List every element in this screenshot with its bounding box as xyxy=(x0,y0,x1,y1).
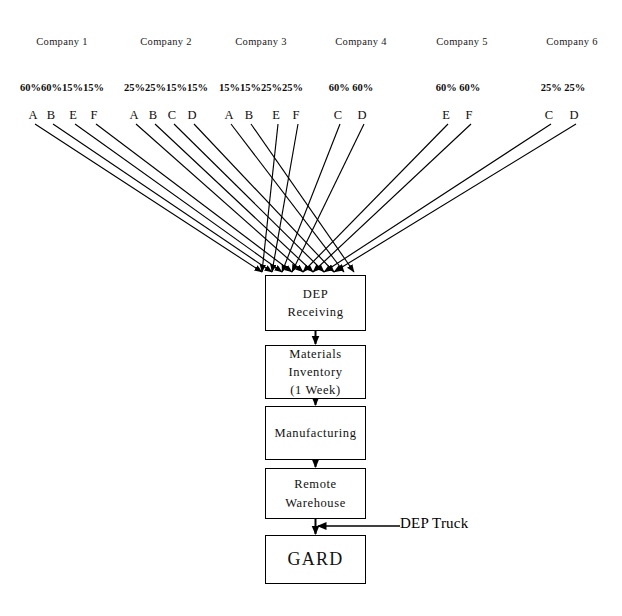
process-box-dep-receiving-line: DEP xyxy=(303,285,328,303)
company-header-3: Company 3 xyxy=(235,36,286,47)
source-letter-6-C: C xyxy=(545,108,553,123)
source-letter-2-B: B xyxy=(149,108,157,123)
percent-row-company-3: 15%15%25%25% xyxy=(219,82,303,93)
process-box-dep-receiving: DEPReceiving xyxy=(265,275,366,331)
supplier-arrow xyxy=(35,124,262,272)
supplier-arrow xyxy=(174,124,324,272)
source-letter-1-A: A xyxy=(28,108,37,123)
percent-row-company-4: 60% 60% xyxy=(329,82,374,93)
company-header-6: Company 6 xyxy=(546,36,597,47)
source-letter-5-F: F xyxy=(466,108,473,123)
source-letter-6-D: D xyxy=(569,108,578,123)
process-box-gard: GARD xyxy=(265,535,366,584)
source-letter-3-F: F xyxy=(293,108,300,123)
company-header-2: Company 2 xyxy=(140,36,191,47)
supplier-arrow xyxy=(96,124,292,272)
process-box-materials-inventory-line: Materials xyxy=(289,345,342,363)
source-letter-1-E: E xyxy=(69,108,77,123)
source-letter-2-A: A xyxy=(129,108,138,123)
process-box-remote-warehouse-line: Remote xyxy=(294,475,336,493)
source-letter-1-B: B xyxy=(47,108,55,123)
source-letter-4-D: D xyxy=(357,108,366,123)
supplier-arrow xyxy=(136,124,303,272)
percent-row-company-1: 60%60%15%15% xyxy=(20,82,104,93)
percent-row-company-5: 60% 60% xyxy=(436,82,481,93)
supplier-arrow xyxy=(324,124,551,272)
process-box-gard-line: GARD xyxy=(288,546,344,572)
percent-row-company-6: 25% 25% xyxy=(541,82,586,93)
process-box-materials-inventory-line: Inventory xyxy=(289,363,343,381)
source-letter-1-F: F xyxy=(91,108,98,123)
process-box-manufacturing-line: Manufacturing xyxy=(274,424,356,442)
process-box-manufacturing: Manufacturing xyxy=(265,406,366,460)
supplier-arrow xyxy=(334,124,576,272)
supplier-arrow xyxy=(313,124,471,272)
source-letter-2-D: D xyxy=(187,108,196,123)
supplier-arrow xyxy=(231,124,344,272)
process-box-materials-inventory-line: (1 Week) xyxy=(290,381,340,399)
source-letter-3-B: B xyxy=(245,108,253,123)
percent-row-company-2: 25%25%15%15% xyxy=(124,82,208,93)
process-box-dep-receiving-line: Receiving xyxy=(287,303,343,321)
supplier-arrow-group xyxy=(35,124,576,272)
diagram-canvas: Company 1Company 2Company 3Company 4Comp… xyxy=(0,0,622,616)
dep-truck-label: DEP Truck xyxy=(400,515,468,532)
company-header-1: Company 1 xyxy=(36,36,87,47)
company-header-4: Company 4 xyxy=(335,36,386,47)
supplier-arrow xyxy=(53,124,272,272)
supplier-arrow xyxy=(282,124,340,272)
source-letter-3-E: E xyxy=(272,108,280,123)
source-letter-4-C: C xyxy=(334,108,342,123)
process-box-remote-warehouse-line: Warehouse xyxy=(285,494,346,512)
process-box-materials-inventory: MaterialsInventory(1 Week) xyxy=(265,345,366,399)
source-letter-3-A: A xyxy=(224,108,233,123)
company-header-5: Company 5 xyxy=(436,36,487,47)
supplier-arrow xyxy=(303,124,448,272)
source-letter-5-E: E xyxy=(442,108,450,123)
source-letter-2-C: C xyxy=(168,108,176,123)
process-box-remote-warehouse: RemoteWarehouse xyxy=(265,468,366,519)
